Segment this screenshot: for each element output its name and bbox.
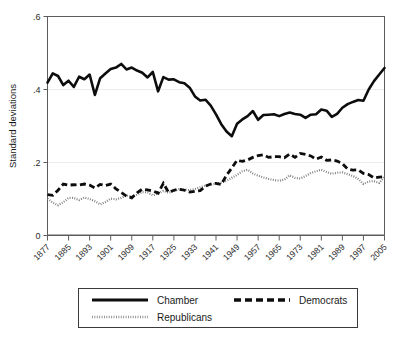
x-tick-label: 1957 — [242, 242, 263, 263]
x-tick-label: 1893 — [73, 242, 94, 263]
legend-label-republicans: Republicans — [157, 312, 212, 323]
series-group — [48, 64, 385, 205]
x-tick-label: 1933 — [179, 242, 200, 263]
plot-gridlines — [48, 17, 385, 236]
plot-frame — [48, 17, 385, 236]
y-tick-label: 0 — [35, 231, 40, 241]
x-tick-label: 1997 — [347, 242, 368, 263]
y-tick-label: .6 — [33, 12, 41, 22]
x-tick-label: 1917 — [137, 242, 158, 263]
series-line-chamber — [48, 64, 385, 136]
x-tick-label: 1981 — [305, 242, 326, 263]
x-tick-label: 1965 — [263, 242, 284, 263]
x-tick-label: 2005 — [368, 242, 389, 263]
series-line-democrats — [48, 153, 385, 198]
chart-legend: Chamber Democrats Republicans — [79, 289, 358, 328]
y-tick-label: .4 — [33, 85, 41, 95]
x-tick-label: 1909 — [116, 242, 137, 263]
x-tick-label: 1941 — [200, 242, 221, 263]
legend-label-democrats: Democrats — [299, 295, 347, 306]
y-axis-title: Standard deviations — [7, 84, 18, 168]
y-axis: 0.2.4.6 — [33, 12, 48, 241]
x-tick-label: 1901 — [95, 242, 116, 263]
x-tick-label: 1949 — [221, 242, 242, 263]
x-tick-label: 1989 — [326, 242, 347, 263]
legend-label-chamber: Chamber — [157, 295, 199, 306]
line-chart: 0.2.4.6 18771885189319011909191719251933… — [0, 0, 403, 343]
x-tick-label: 1925 — [158, 242, 179, 263]
y-tick-label: .2 — [33, 158, 41, 168]
x-tick-label: 1973 — [284, 242, 305, 263]
x-tick-label: 1877 — [31, 242, 52, 263]
x-axis: 1877188518931901190919171925193319411949… — [31, 236, 389, 263]
chart-figure: 0.2.4.6 18771885189319011909191719251933… — [0, 0, 403, 343]
x-tick-label: 1885 — [52, 242, 73, 263]
